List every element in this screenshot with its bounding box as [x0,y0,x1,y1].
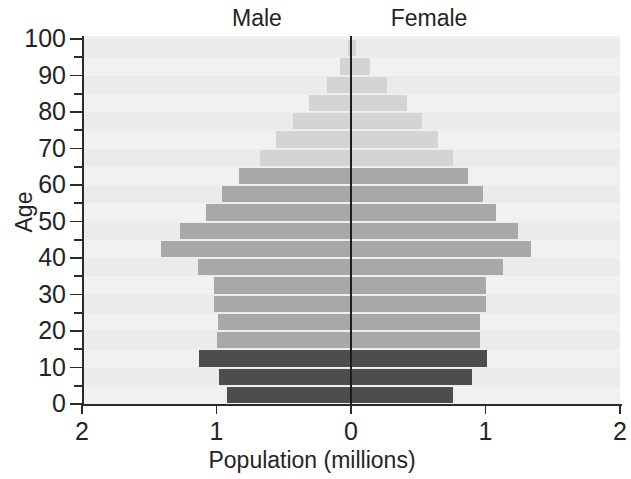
y-axis-tick [70,367,83,369]
x-axis-tick [216,404,218,414]
y-axis-title: Age [12,162,36,262]
x-axis-tick [81,404,83,414]
y-axis-tick [74,93,83,95]
x-axis-tick [619,404,621,414]
x-axis-tick [485,404,487,414]
y-axis-tick [70,294,83,296]
y-axis-tick [74,348,83,350]
y-axis-tick-label: 20 [0,318,66,343]
y-axis-tick [74,166,83,168]
y-axis-tick [74,275,83,277]
y-axis-tick [70,111,83,113]
y-axis-tick-label: 80 [0,99,66,124]
y-axis-tick [70,257,83,259]
y-axis-tick [70,38,83,40]
y-axis-tick-label: 10 [0,355,66,380]
x-axis-tick-label: 2 [62,418,102,444]
y-axis-tick [70,184,83,186]
x-axis-tick-label: 1 [466,418,506,444]
x-axis-tick [350,404,352,414]
x-axis-tick-label: 2 [600,418,631,444]
x-axis-tick-label: 0 [331,418,371,444]
y-axis-tick [70,148,83,150]
y-axis-tick [74,312,83,314]
y-axis-tick [74,202,83,204]
x-axis-tick-label: 1 [197,418,237,444]
y-axis-tick [74,56,83,58]
y-axis-tick [70,75,83,77]
y-axis-tick [74,385,83,387]
y-axis-tick-label: 90 [0,63,66,88]
y-axis-tick-label: 100 [0,26,66,51]
y-axis-tick-label: 30 [0,282,66,307]
y-axis-tick [74,239,83,241]
y-axis-tick [70,221,83,223]
y-axis-tick-label: 0 [0,391,66,416]
y-axis-tick [70,330,83,332]
y-axis-tick [74,129,83,131]
y-axis-tick-label: 70 [0,136,66,161]
x-axis-title: Population (millions) [0,448,624,472]
